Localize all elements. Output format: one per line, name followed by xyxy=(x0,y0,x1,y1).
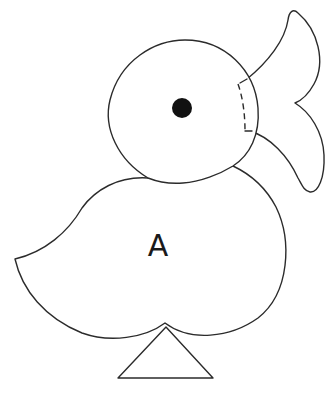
beak xyxy=(247,11,324,192)
eye xyxy=(172,98,192,118)
body-label: A xyxy=(148,228,169,263)
duck-diagram: A xyxy=(0,0,335,396)
